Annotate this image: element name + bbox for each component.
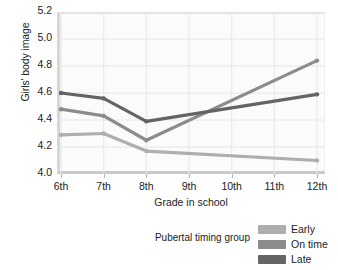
x-axis-title: Grade in school bbox=[57, 196, 325, 208]
legend-item: Early bbox=[258, 222, 334, 236]
legend-label: On time bbox=[291, 238, 328, 250]
data-point bbox=[315, 58, 319, 62]
legend-caption: Pubertal timing group bbox=[120, 232, 250, 243]
y-tick-label: 4.4 bbox=[26, 113, 52, 123]
y-tick-label: 5.2 bbox=[26, 5, 52, 15]
plot-area-wrapper bbox=[57, 12, 325, 174]
y-tick-label: 4.6 bbox=[26, 86, 52, 96]
legend-label: Early bbox=[291, 223, 315, 235]
x-tick-label: 11th bbox=[254, 180, 294, 192]
legend-swatch bbox=[258, 240, 286, 249]
data-point bbox=[59, 133, 63, 137]
data-point bbox=[59, 107, 63, 111]
legend-swatch bbox=[258, 225, 286, 234]
x-tick-label: 10th bbox=[212, 180, 252, 192]
x-tick-mark bbox=[104, 174, 105, 178]
y-tick-label: 4.2 bbox=[26, 140, 52, 150]
legend-item: Late bbox=[258, 252, 334, 266]
x-tick-mark bbox=[317, 174, 318, 178]
x-tick-mark bbox=[232, 174, 233, 178]
series-early bbox=[59, 131, 319, 162]
x-tick-mark bbox=[274, 174, 275, 178]
data-point bbox=[101, 131, 105, 135]
data-point bbox=[144, 119, 148, 123]
data-point bbox=[144, 138, 148, 142]
data-point bbox=[101, 114, 105, 118]
y-tick-label: 5.0 bbox=[26, 32, 52, 42]
legend-swatch bbox=[258, 255, 286, 264]
legend-item: On time bbox=[258, 237, 334, 251]
x-tick-label: 8th bbox=[126, 180, 166, 192]
data-point bbox=[59, 91, 63, 95]
x-axis-tick-labels: 6th7th8th9th10th11th12th bbox=[57, 174, 325, 194]
y-axis-tick-labels: 4.04.24.44.64.85.05.2 bbox=[26, 10, 52, 172]
x-tick-mark bbox=[189, 174, 190, 178]
x-tick-label: 9th bbox=[169, 180, 209, 192]
y-tick-label: 4.8 bbox=[26, 59, 52, 69]
data-point bbox=[144, 149, 148, 153]
x-tick-mark bbox=[61, 174, 62, 178]
x-tick-label: 6th bbox=[41, 180, 81, 192]
data-point bbox=[315, 158, 319, 162]
legend: EarlyOn timeLate bbox=[258, 222, 334, 267]
data-point bbox=[101, 96, 105, 100]
x-tick-mark bbox=[146, 174, 147, 178]
y-tick-label: 4.0 bbox=[26, 167, 52, 177]
x-tick-label: 7th bbox=[84, 180, 124, 192]
data-point bbox=[315, 92, 319, 96]
line-chart-figure: Girls' body image 4.04.24.44.64.85.05.2 … bbox=[0, 0, 338, 270]
data-series-layer bbox=[57, 12, 325, 174]
legend-label: Late bbox=[291, 253, 311, 265]
x-tick-label: 12th bbox=[297, 180, 337, 192]
